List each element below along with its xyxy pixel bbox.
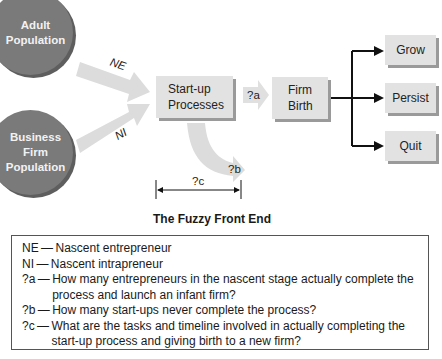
adult-population-label-2: Population bbox=[6, 33, 65, 48]
startup-label-1: Start-up bbox=[168, 81, 224, 97]
firm-birth-box: Firm Birth bbox=[272, 77, 328, 119]
business-firm-label-3: Population bbox=[6, 160, 65, 175]
legend-text: How many entrepreneurs in the nascent st… bbox=[52, 272, 420, 303]
legend-row: ?a — How many entrepreneurs in the nasce… bbox=[22, 272, 420, 303]
legend-key: NE — bbox=[22, 241, 55, 257]
outcome-persist-box: Persist bbox=[385, 83, 436, 113]
outcome-persist-label: Persist bbox=[392, 90, 429, 106]
ni-flow-arrow bbox=[76, 104, 150, 153]
outcome-connectors bbox=[328, 51, 374, 146]
b-label: ?b bbox=[228, 163, 241, 175]
legend-key: ?b — bbox=[22, 303, 52, 319]
outcome-quit-box: Quit bbox=[385, 131, 436, 161]
outcome-grow-box: Grow bbox=[385, 35, 436, 65]
legend-row: NI — Nascent intrapreneur bbox=[22, 257, 420, 273]
startup-label-2: Processes bbox=[168, 97, 224, 113]
legend-key: NI — bbox=[22, 257, 51, 273]
firm-birth-label-2: Birth bbox=[288, 98, 313, 114]
outcome-grow-label: Grow bbox=[396, 42, 425, 58]
legend-key: ?c — bbox=[22, 319, 52, 350]
firm-birth-label-1: Firm bbox=[288, 82, 313, 98]
legend-row: ?c — What are the tasks and timeline inv… bbox=[22, 319, 420, 350]
startup-processes-box: Start-up Processes bbox=[156, 76, 233, 118]
legend-text: Nascent intrapreneur bbox=[51, 257, 163, 273]
diagram-caption: The Fuzzy Front End bbox=[153, 212, 271, 226]
adult-population-label-1: Adult bbox=[6, 18, 65, 33]
outcome-quit-label: Quit bbox=[399, 138, 421, 154]
business-firm-label-1: Business bbox=[6, 130, 65, 145]
legend-text: What are the tasks and timeline involved… bbox=[52, 319, 421, 350]
legend-key: ?a — bbox=[22, 272, 52, 303]
a-label: ?a bbox=[247, 89, 260, 101]
legend-box: NE — Nascent entrepreneur NI — Nascent i… bbox=[11, 235, 429, 350]
business-firm-label-2: Firm bbox=[6, 145, 65, 160]
c-label: ?c bbox=[192, 175, 204, 187]
outcome-arrowheads bbox=[374, 46, 384, 151]
legend-text: Nascent entrepreneur bbox=[55, 241, 171, 257]
legend-text: How many start-ups never complete the pr… bbox=[52, 303, 316, 319]
legend-row: NE — Nascent entrepreneur bbox=[22, 241, 420, 257]
legend-row: ?b — How many start-ups never complete t… bbox=[22, 303, 420, 319]
